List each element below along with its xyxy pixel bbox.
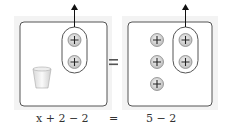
left-equation-label: x + 2 − 2: [36, 112, 89, 125]
plus-counter-icon: [151, 78, 164, 91]
plus-counter-icon: [179, 56, 192, 69]
right-equation-label: 5 − 2: [146, 112, 176, 125]
plus-counter-icon: [151, 34, 164, 47]
plus-counter-icon: [68, 34, 81, 47]
balance-diagram: [0, 0, 230, 129]
left-panel: [14, 4, 112, 110]
right-frame: [128, 22, 212, 106]
plus-counter-icon: [179, 34, 192, 47]
plus-counter-icon: [68, 56, 81, 69]
cup-icon: [33, 67, 51, 88]
right-panel: [122, 4, 218, 110]
equation-equals-sign: =: [109, 112, 118, 125]
plus-counter-icon: [151, 56, 164, 69]
